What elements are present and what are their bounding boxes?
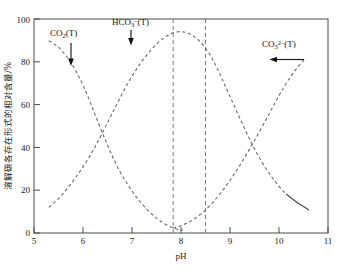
x-axis-title: pH xyxy=(176,251,188,261)
x-tick-label-8: 8 xyxy=(179,236,184,246)
curve-co3 xyxy=(173,59,305,228)
curve-co2 xyxy=(49,41,183,230)
y-axis-title: 溶解碳各存在形式的相对含量/% xyxy=(3,62,13,190)
hco3-arrow-head xyxy=(128,38,134,46)
hco3-label: HCO3–(T) xyxy=(112,17,149,29)
y-tick-label-40: 40 xyxy=(21,143,31,153)
co2-annotation: CO2(T) xyxy=(50,28,77,66)
y-tick-label-20: 20 xyxy=(21,185,31,195)
hco3-annotation: HCO3–(T) xyxy=(112,17,149,46)
co3-annotation: CO32–(T) xyxy=(262,39,304,63)
x-tick-label-10: 10 xyxy=(275,236,285,246)
y-axis-ticks xyxy=(34,19,40,233)
carbonate-speciation-chart: 0 20 40 60 80 100 5 6 7 8 9 10 11 pH 溶解碳… xyxy=(0,0,338,277)
x-tick-label-11: 11 xyxy=(324,236,333,246)
y-tick-label-80: 80 xyxy=(21,57,31,67)
y-tick-label-0: 0 xyxy=(26,228,31,238)
plot-frame xyxy=(34,19,328,233)
y-tick-label-60: 60 xyxy=(21,100,31,110)
curve-hco3-solid-tail xyxy=(286,194,309,210)
co3-arrow-head xyxy=(270,57,278,63)
co2-label: CO2(T) xyxy=(50,28,77,39)
chart-figure: 0 20 40 60 80 100 5 6 7 8 9 10 11 pH 溶解碳… xyxy=(0,0,338,277)
x-tick-label-6: 6 xyxy=(81,236,86,246)
co3-label: CO32–(T) xyxy=(262,39,296,51)
x-tick-label-5: 5 xyxy=(32,236,37,246)
curve-hco3 xyxy=(49,32,286,208)
x-tick-label-7: 7 xyxy=(130,236,135,246)
co2-arrow-head xyxy=(68,59,74,67)
x-tick-label-9: 9 xyxy=(228,236,233,246)
y-tick-label-100: 100 xyxy=(17,15,31,25)
